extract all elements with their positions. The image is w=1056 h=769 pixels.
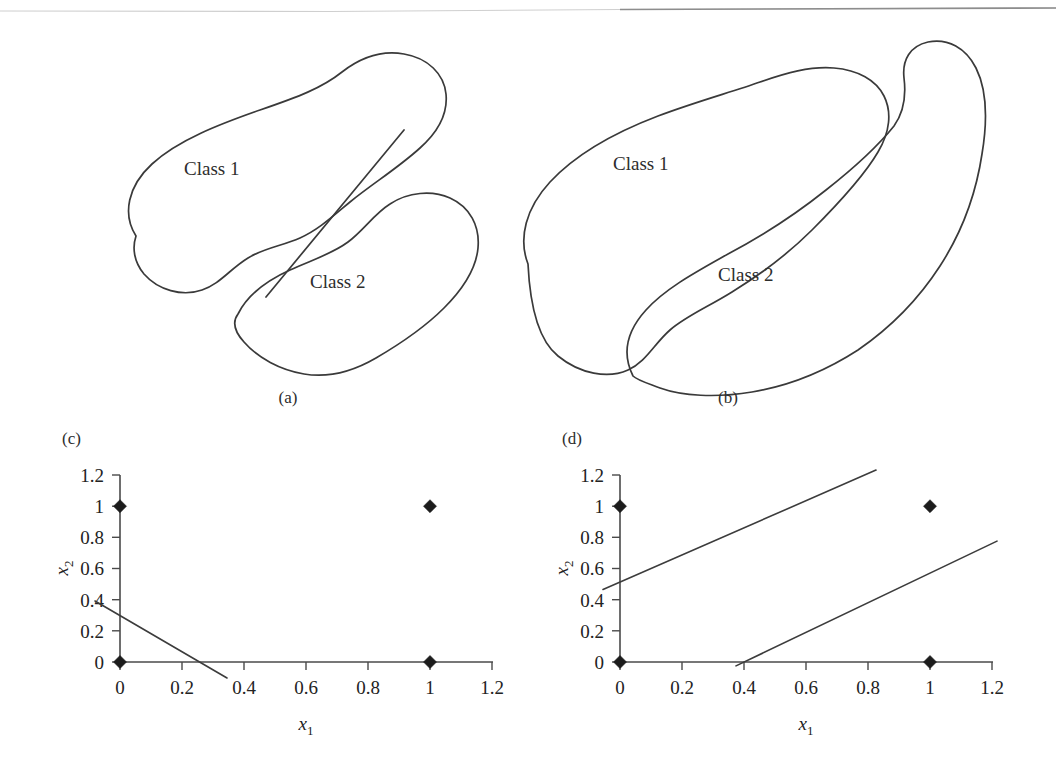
svg-text:1: 1 [925,677,935,698]
panel-c-plot-area: 0 0.2 0.4 0.6 0.8 1 1.2 0 0.2 0.4 0.6 0.… [51,465,504,738]
svg-text:1.2: 1.2 [580,465,604,486]
x-tick-marks [120,662,492,670]
panel-b-diagram: Class 1 Class 2 (b) [500,18,1000,413]
svg-text:0.2: 0.2 [170,677,194,698]
decision-line-2 [736,541,997,666]
svg-text:0.4: 0.4 [232,677,256,698]
svg-text:0.4: 0.4 [80,590,104,611]
svg-text:1: 1 [425,677,435,698]
class2-label: Class 2 [310,271,365,292]
svg-text:1.2: 1.2 [480,677,504,698]
svg-text:1: 1 [595,496,605,517]
panel-b: Class 1 Class 2 (b) [500,18,1000,413]
data-point-marker [114,656,127,669]
svg-text:0.4: 0.4 [580,590,604,611]
panel-b-caption: (b) [718,388,738,407]
data-points [614,500,937,669]
svg-text:0.6: 0.6 [794,677,818,698]
panel-a-caption: (a) [279,388,298,407]
svg-text:0.8: 0.8 [356,677,380,698]
svg-text:0.8: 0.8 [80,527,104,548]
svg-text:1.2: 1.2 [80,465,104,486]
class1-label: Class 1 [613,153,668,174]
decision-line-1 [95,601,227,678]
x-tick-labels: 0 0.2 0.4 0.6 0.8 1 1.2 [115,677,504,698]
svg-text:0.8: 0.8 [856,677,880,698]
panel-d-plot-area: 0 0.2 0.4 0.6 0.8 1 1.2 0 0.2 0.4 0.6 0.… [551,465,1004,738]
class1-region-outline [129,53,447,293]
decision-line-1 [603,470,876,589]
data-point-marker [114,500,127,513]
panel-d: (d) [540,418,1040,763]
svg-text:1: 1 [95,496,105,517]
x-tick-labels: 0 0.2 0.4 0.6 0.8 1 1.2 [615,677,1004,698]
x-axis-title: x1 [798,713,814,738]
data-point-marker [424,656,437,669]
data-point-marker [924,656,937,669]
x-axis-title: x1 [298,713,314,738]
svg-text:0.2: 0.2 [580,621,604,642]
svg-text:0: 0 [615,677,625,698]
class2-label: Class 2 [718,264,773,285]
svg-text:0.6: 0.6 [580,558,604,579]
svg-text:0: 0 [595,652,605,673]
figure-root: Class 1 Class 2 (a) Class 1 Class 2 (b) … [0,0,1056,769]
svg-text:0.2: 0.2 [80,621,104,642]
y-tick-labels: 0 0.2 0.4 0.6 0.8 1 1.2 [580,465,604,673]
data-point-marker [614,656,627,669]
x-tick-marks [620,662,992,670]
svg-text:0.6: 0.6 [294,677,318,698]
panel-d-plot: (d) [540,418,1040,763]
data-point-marker [424,500,437,513]
panel-c: (c) [40,418,540,763]
svg-text:0.8: 0.8 [580,527,604,548]
svg-text:0.4: 0.4 [732,677,756,698]
panel-d-caption: (d) [562,429,582,448]
panel-c-plot: (c) [40,418,540,763]
class1-region-outline [524,68,889,375]
svg-text:0.6: 0.6 [80,558,104,579]
y-axis-title: x2 [51,561,76,577]
class2-region-outline [627,41,985,395]
data-point-marker [614,500,627,513]
class1-label: Class 1 [184,158,239,179]
svg-text:0: 0 [115,677,125,698]
svg-text:0.2: 0.2 [670,677,694,698]
data-point-marker [924,500,937,513]
data-points [114,500,437,669]
panel-c-caption: (c) [62,429,81,448]
y-axis-title: x2 [551,561,576,577]
scan-edge-artifact [0,6,1056,18]
y-tick-labels: 0 0.2 0.4 0.6 0.8 1 1.2 [80,465,104,673]
svg-text:0: 0 [95,652,105,673]
svg-text:1.2: 1.2 [980,677,1004,698]
panel-a-diagram: Class 1 Class 2 (a) [60,18,520,413]
panel-a: Class 1 Class 2 (a) [60,18,520,413]
